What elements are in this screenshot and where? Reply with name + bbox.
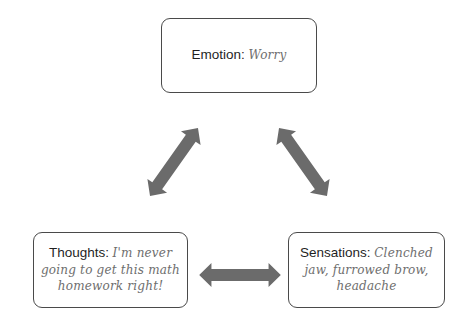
double-arrow-emotion-sensations-icon xyxy=(269,121,337,203)
double-arrow-thoughts-sensations-icon xyxy=(199,263,281,287)
double-arrow-emotion-thoughts-icon xyxy=(140,121,208,203)
arrows-layer xyxy=(0,0,474,320)
